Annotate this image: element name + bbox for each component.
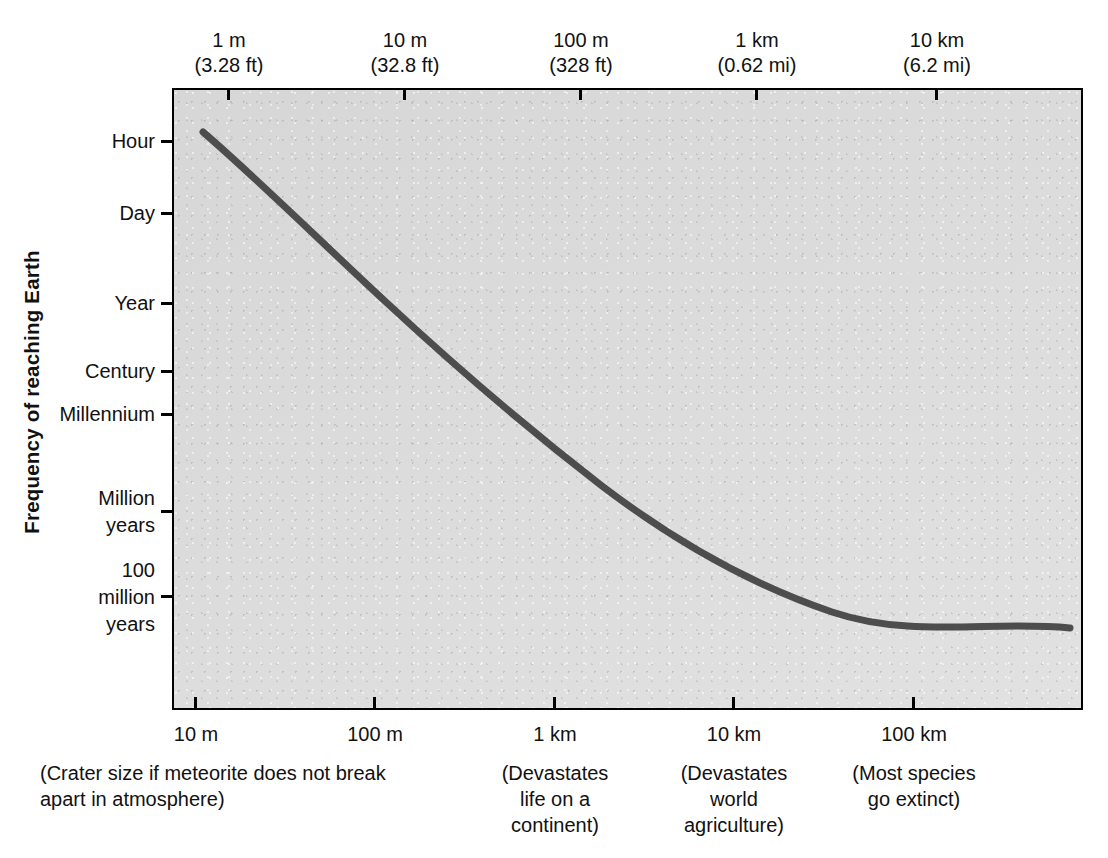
x-top-label-3-secondary: (0.62 mi): [718, 53, 797, 78]
caption-devastates-agriculture-line-0: (Devastates: [644, 760, 824, 786]
x-top-label-3-primary: 1 km: [718, 28, 797, 53]
y-tick-label-century: Century: [5, 358, 155, 385]
x-bottom-tick-2: [553, 697, 556, 710]
x-top-tick-4: [935, 88, 938, 100]
x-top-tick-1: [403, 88, 406, 100]
x-top-tick-2: [579, 88, 582, 100]
x-bottom-tick-4: [912, 697, 915, 710]
y-tick-label-hour: Hour: [5, 128, 155, 155]
caption-crater-size-line-1: apart in atmosphere): [40, 786, 500, 812]
y-tick-3: [161, 370, 174, 373]
x-top-label-0-secondary: (3.28 ft): [195, 53, 264, 78]
y-tick-label-100-million-years: 100 million years: [5, 557, 155, 638]
x-bottom-tick-1: [373, 697, 376, 710]
caption-devastates-continent-line-2: continent): [465, 812, 645, 838]
caption-devastates-agriculture-line-1: world: [644, 786, 824, 812]
x-top-label-2-secondary: (328 ft): [549, 53, 612, 78]
x-top-label-2: 100 m (328 ft): [549, 28, 612, 78]
x-bottom-label-1: 100 m: [347, 722, 403, 747]
y-tick-label-year: Year: [5, 290, 155, 317]
caption-devastates-agriculture-line-2: agriculture): [644, 812, 824, 838]
caption-crater-size-line-0: (Crater size if meteorite does not break: [40, 760, 500, 786]
y-tick-label-millennium: Millennium: [5, 401, 155, 428]
caption-devastates-continent: (Devastates life on a continent): [465, 760, 645, 838]
x-top-label-1-primary: 10 m: [371, 28, 440, 53]
x-bottom-tick-3: [732, 697, 735, 710]
x-top-label-1-secondary: (32.8 ft): [371, 53, 440, 78]
y-tick-5: [161, 510, 174, 513]
x-top-tick-0: [227, 88, 230, 100]
impact-frequency-chart: Frequency of reaching Earth 1 m (3.28 ft…: [0, 0, 1108, 858]
x-bottom-label-3: 10 km: [707, 722, 761, 747]
x-bottom-label-2: 1 km: [533, 722, 576, 747]
caption-most-species-extinct-line-0: (Most species: [819, 760, 1009, 786]
x-top-label-4: 10 km (6.2 mi): [903, 28, 971, 78]
caption-most-species-extinct-line-1: go extinct): [819, 786, 1009, 812]
x-top-label-0-primary: 1 m: [195, 28, 264, 53]
x-bottom-tick-0: [194, 697, 197, 710]
y-tick-4: [161, 413, 174, 416]
y-tick-2: [161, 302, 174, 305]
x-top-label-2-primary: 100 m: [549, 28, 612, 53]
x-top-label-3: 1 km (0.62 mi): [718, 28, 797, 78]
caption-devastates-agriculture: (Devastates world agriculture): [644, 760, 824, 838]
x-bottom-label-4: 100 km: [881, 722, 947, 747]
caption-devastates-continent-line-0: (Devastates: [465, 760, 645, 786]
y-tick-1: [161, 212, 174, 215]
impact-frequency-curve: [172, 88, 1083, 710]
x-top-label-1: 10 m (32.8 ft): [371, 28, 440, 78]
x-top-label-0: 1 m (3.28 ft): [195, 28, 264, 78]
x-top-tick-3: [755, 88, 758, 100]
caption-most-species-extinct: (Most species go extinct): [819, 760, 1009, 812]
y-tick-0: [161, 140, 174, 143]
x-top-label-4-primary: 10 km: [903, 28, 971, 53]
y-tick-label-day: Day: [5, 200, 155, 227]
y-tick-label-million-years: Million years: [5, 485, 155, 539]
x-bottom-label-0: 10 m: [174, 722, 218, 747]
y-tick-6: [161, 595, 174, 598]
caption-crater-size: (Crater size if meteorite does not break…: [40, 760, 500, 812]
x-top-label-4-secondary: (6.2 mi): [903, 53, 971, 78]
caption-devastates-continent-line-1: life on a: [465, 786, 645, 812]
